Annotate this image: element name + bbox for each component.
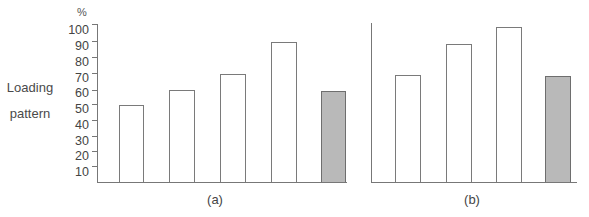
tick-label-10: 10 — [61, 165, 89, 179]
bar-a-5-highlighted — [321, 91, 346, 182]
tick-label-100: 100 — [61, 23, 89, 37]
tick-mark — [92, 90, 98, 91]
tick-mark — [92, 41, 98, 42]
bar-b-3 — [496, 27, 522, 182]
bar-b-2 — [446, 44, 472, 182]
tick-mark — [92, 24, 98, 25]
y-axis-title-line2: pattern — [0, 101, 60, 127]
tick-label-40: 40 — [61, 118, 89, 132]
bar-a-1 — [119, 105, 144, 182]
x-axis-a — [97, 182, 347, 183]
tick-label-50: 50 — [61, 102, 89, 116]
bar-a-4 — [271, 42, 297, 182]
x-axis-b — [371, 182, 577, 183]
tick-mark — [92, 136, 98, 137]
bar-a-2 — [169, 90, 195, 182]
y-axis-title: Loading pattern — [0, 75, 60, 127]
tick-mark — [92, 120, 98, 121]
tick-label-70: 70 — [61, 71, 89, 85]
y-axis-title-line1: Loading — [0, 75, 60, 101]
y-axis-unit: % — [77, 6, 87, 18]
y-axis-b — [371, 23, 372, 183]
tick-label-20: 20 — [61, 149, 89, 163]
bar-b-4-highlighted — [545, 76, 571, 182]
tick-mark — [92, 104, 98, 105]
bar-b-1 — [395, 75, 421, 182]
tick-label-90: 90 — [61, 39, 89, 53]
tick-mark — [92, 57, 98, 58]
tick-mark — [92, 166, 98, 167]
panel-label-a: (a) — [195, 192, 235, 207]
tick-label-80: 80 — [61, 55, 89, 69]
tick-mark — [92, 151, 98, 152]
tick-label-60: 60 — [61, 86, 89, 100]
panel-label-b: (b) — [452, 192, 492, 207]
tick-mark — [92, 73, 98, 74]
bar-a-3 — [220, 74, 246, 182]
tick-label-30: 30 — [61, 134, 89, 148]
